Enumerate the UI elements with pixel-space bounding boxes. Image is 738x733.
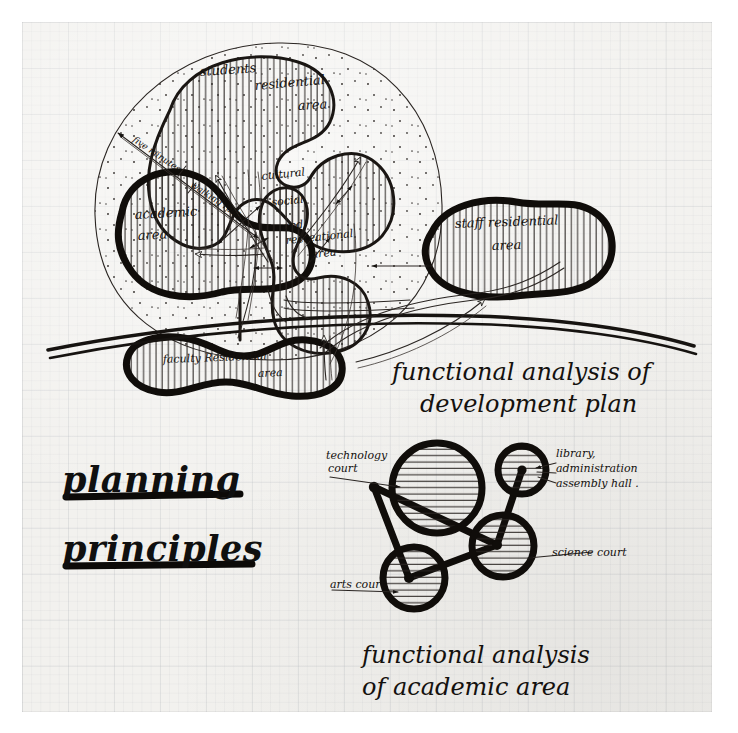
label-students-residential-line1: students	[199, 60, 257, 79]
sketch-text: students residential area academic area …	[0, 0, 738, 733]
label-arts-court: arts court	[330, 578, 386, 591]
label-academic-area-line2: area	[137, 226, 167, 243]
label-administration: administration	[556, 462, 638, 475]
label-technology-court-line2: court	[328, 462, 358, 475]
label-and: and	[282, 218, 304, 233]
label-recreational-area: area	[311, 245, 337, 261]
label-students-residential-line3: area	[297, 96, 327, 113]
caption-academic-area-line2: of academic area	[362, 673, 570, 701]
label-social: social	[271, 193, 305, 209]
label-library: library,	[556, 447, 595, 460]
caption-development-plan-line2: development plan	[420, 390, 637, 418]
label-cultural: cultural	[261, 165, 306, 183]
label-students-residential-line2: residential	[254, 72, 325, 93]
label-faculty-residential-line2: area	[258, 366, 283, 380]
label-academic-area-line1: academic	[134, 204, 198, 222]
sketch-page: students residential area academic area …	[0, 0, 738, 733]
page-title-line1: planning	[62, 459, 241, 500]
page-title-line2: principles	[62, 528, 263, 569]
label-technology-court-line1: technology	[326, 449, 388, 462]
annotation-walking-radius: walking radius	[189, 179, 251, 225]
label-science-court: science court	[552, 546, 627, 559]
label-assembly-hall: assembly hall .	[556, 477, 639, 490]
caption-development-plan-line1: functional analysis of	[390, 358, 655, 386]
label-staff-residential-line1: staff residential	[455, 212, 559, 231]
annotation-five-minutes: five minutes	[130, 134, 183, 174]
caption-academic-area-line1: functional analysis	[360, 641, 590, 669]
label-staff-residential-line2: area	[492, 237, 522, 253]
label-faculty-residential-line1: faculty Residential	[162, 349, 268, 366]
